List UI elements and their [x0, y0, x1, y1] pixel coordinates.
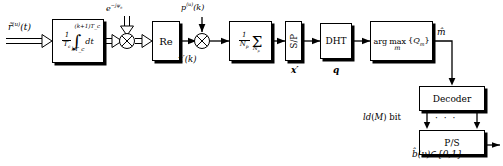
wire-mixer1-to-re — [135, 35, 152, 48]
after-argmax-signal-label: m̂ — [437, 28, 446, 37]
real-part-label: Re — [159, 36, 172, 47]
after-sp-signal-label: x′ — [291, 66, 299, 75]
serial-to-parallel-label: S/P — [289, 34, 299, 48]
output-signal-label: b̂(ν)∈{0,1} — [412, 150, 463, 159]
argmax-index: m — [394, 44, 400, 52]
dht-label: DHT — [325, 36, 346, 46]
after-dht-signal-label: q — [333, 66, 339, 75]
integrator-block[interactable]: 1 Tc (k+1)T_c ∫ kT_c dt — [52, 19, 104, 63]
argmax-arg-text: arg — [373, 37, 387, 46]
parallel-to-serial-label: P/S — [444, 138, 459, 148]
input-signal-label: r̃(u)(t) — [8, 22, 31, 32]
after-re-signal-label: x′(k) — [178, 55, 197, 64]
decoder-block[interactable]: Decoder — [419, 86, 485, 111]
despread-code-label: p(u)(k) — [181, 2, 204, 12]
phase-rotator-label: e−jψ0 — [106, 3, 122, 13]
averager-prefactor: 1 Np — [239, 32, 250, 49]
summation-index: Np — [253, 45, 260, 53]
mixer2-symbol — [195, 34, 210, 49]
argmax-block[interactable]: arg max m {Qm} — [370, 21, 433, 61]
decoder-label: Decoder — [433, 94, 471, 104]
parallel-lines-ellipsis: · · · — [435, 114, 457, 123]
serial-to-parallel-block[interactable]: S/P — [285, 21, 302, 61]
averager-block[interactable]: 1 Np Σ Np — [229, 21, 272, 61]
integral-differential: dt — [85, 37, 93, 46]
real-part-block[interactable]: Re — [152, 21, 180, 61]
mixer1-symbol — [120, 34, 135, 49]
decoder-output-width-label: ld(M) bit — [363, 113, 401, 122]
integrator-prefactor: 1 Tc — [62, 32, 71, 49]
dht-block[interactable]: DHT — [320, 23, 352, 59]
integral-lower-limit: kT_c — [71, 46, 84, 52]
integral-upper-limit: (k+1)T_c — [74, 23, 100, 29]
wire-input-to-integrator — [6, 35, 52, 48]
receiver-block-diagram: 1 Tc (k+1)T_c ∫ kT_c dt Re 1 Np Σ Np — [0, 0, 503, 166]
wire-phase-into-mixer1 — [121, 16, 134, 36]
argmax-set: {Qm} — [408, 36, 429, 47]
wire-argmax-to-decoder — [433, 41, 455, 86]
